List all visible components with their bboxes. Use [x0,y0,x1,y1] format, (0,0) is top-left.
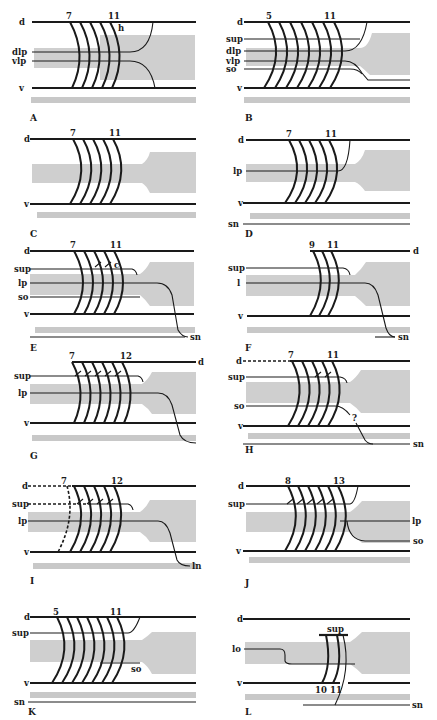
segment-number-first: 10 [315,685,327,695]
panel-label-J: J [244,578,249,588]
segment-number-first: 7 [66,11,72,21]
line-label-sup: sup [228,263,245,273]
line-label-sup: sup [12,628,29,638]
line-label-d: d [237,614,243,624]
segment-number-last: 11 [110,607,122,617]
panel-D: d lp v sn 7 11 D [228,129,410,239]
line-label-so: so [234,401,245,411]
line-label-lp: lp [233,166,242,176]
line-label-sn: sn [412,700,423,710]
panel-A: d dlp vlp v 7 11 h A [11,11,196,123]
line-label-v: v [236,83,243,93]
line-label-d: d [19,17,25,27]
segment-number-last: 12 [111,476,123,486]
line-label-lp: lp [18,516,27,526]
line-label-sup: sup [14,264,31,274]
line-label-v: v [237,421,244,431]
panel-label-F: F [245,343,252,353]
segment-number-first: 7 [286,129,292,139]
segment-number-last: 11 [108,11,120,21]
panel-label-D: D [245,229,253,239]
line-label-v: v [23,678,30,688]
panel-label-G: G [30,451,38,461]
panel-label-L: L [245,707,252,717]
segment-number-first: 5 [266,11,272,21]
panel-K: d sup so v sn 5 11 K [12,607,196,717]
segment-number-first: 7 [70,240,76,250]
line-label-so: so [413,536,424,546]
panel-L: d sup lo v sn 10 11 L [232,614,423,717]
line-label-v: v [235,546,242,556]
line-label-l: l [237,278,241,288]
line-label-d: d [24,246,30,256]
line-label-d: d [413,246,419,256]
panel-C: d v 7 11 C [23,128,196,239]
annotation-question: ? [352,413,357,423]
line-label-v: v [23,418,30,428]
segment-number-last: 11 [324,11,336,21]
line-label-d: d [238,135,244,145]
line-label-lo: lo [232,644,241,654]
panel-label-K: K [28,707,37,717]
segment-number-last: 11 [330,685,342,695]
line-label-v: v [237,198,244,208]
line-label-sup: sup [228,499,245,509]
panel-label-C: C [30,229,37,239]
line-label-sn: sn [228,219,239,229]
line-label-sn: sn [413,439,424,449]
line-label-lp: lp [412,516,421,526]
panel-label-I: I [30,576,34,586]
line-label-d: d [198,357,204,367]
segment-number-first: 7 [61,476,67,486]
panel-label-B: B [245,113,253,123]
line-label-sn: sn [398,332,409,342]
figure-canvas: .ln { stroke: #1a1a1a; stroke-width: 2.2… [0,0,437,720]
panel-F: d sup l v sn 9 11 F [228,240,419,353]
line-label-ln: ln [192,561,201,571]
line-label-sup: sup [228,372,245,382]
line-label-so: so [18,292,29,302]
line-label-v: v [23,199,30,209]
segment-number-first: 7 [69,351,75,361]
line-label-v: v [23,547,30,557]
panel-G: d sup lp v 7 12 G [14,351,204,461]
line-label-sup: sup [226,34,243,44]
line-label-d: d [24,134,30,144]
line-label-v: v [18,83,25,93]
segment-number-first: 9 [309,240,315,250]
panel-E: d sup lp so v sn 7 11 c E [14,240,201,353]
panel-label-E: E [30,343,37,353]
panel-label-A: A [29,113,38,123]
line-label-d: d [22,481,28,491]
line-label-lp: lp [18,388,27,398]
annotation-c: c [114,260,119,270]
segment-number-first: 7 [288,350,294,360]
line-label-so: so [131,664,142,674]
segment-number-first: 8 [285,476,291,486]
line-label-sup: sup [14,371,31,381]
segment-number-last: 11 [325,129,337,139]
segment-number-last: 11 [109,128,121,138]
line-label-so: so [226,64,237,74]
line-label-sn: sn [14,697,25,707]
segment-number-last: 11 [327,240,339,250]
line-label-d: d [238,481,244,491]
line-label-v: v [236,678,243,688]
panel-B: d sup dlp vlp so v 5 11 B [225,11,410,123]
line-label-v: v [237,311,244,321]
panel-H: d sup so v sn 7 11 ? H [228,350,424,455]
line-label-d: d [237,17,243,27]
line-label-dlp: dlp [226,46,241,56]
line-label-d: d [24,612,30,622]
panel-label-H: H [245,445,254,455]
panel-I: d sup lp v ln 7 12 I [12,476,201,586]
line-label-sn: sn [190,332,201,342]
segment-number-first: 5 [53,607,59,617]
segment-number-last: 13 [333,476,345,486]
panel-J: d sup lp so v 8 13 J [228,476,424,588]
annotation-h: h [118,23,124,33]
line-label-vlp: vlp [11,56,26,66]
segment-number-last: 12 [120,351,132,361]
line-label-lp: lp [18,278,27,288]
line-label-d: d [236,356,242,366]
